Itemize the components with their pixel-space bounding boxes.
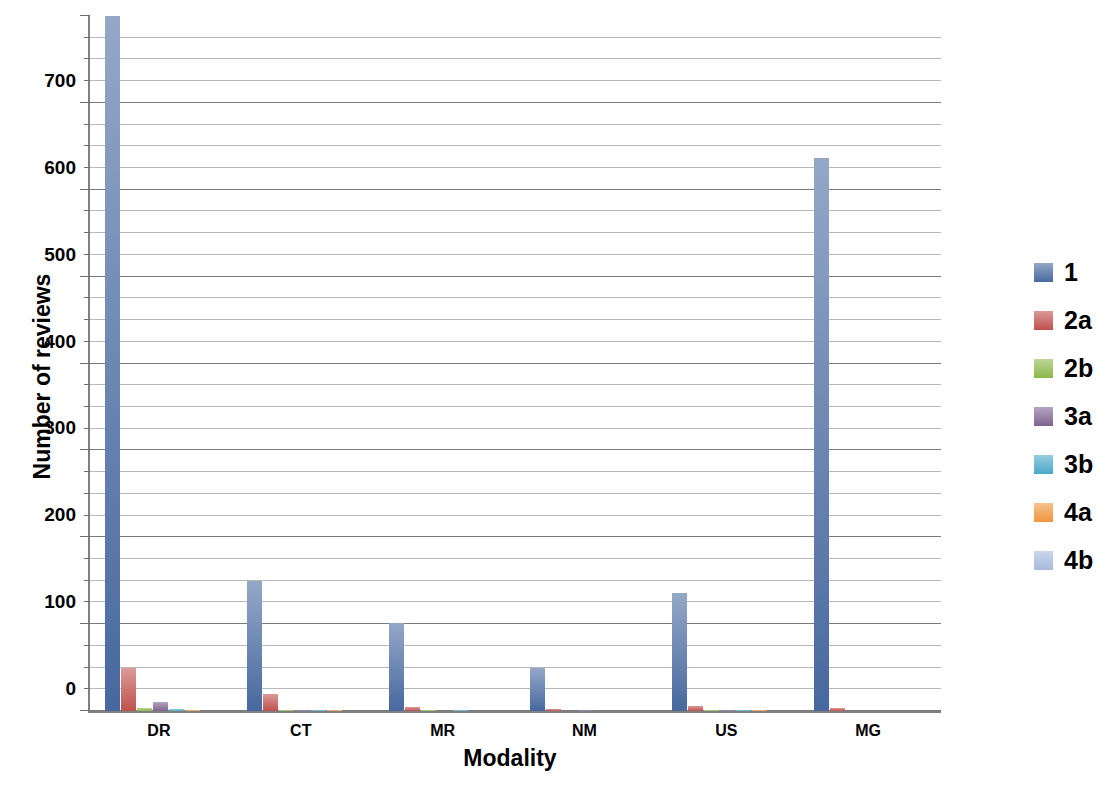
x-axis-label-us: US [715, 722, 737, 740]
bar-ct-series-3a[interactable] [295, 710, 310, 711]
bars-layer [90, 16, 941, 711]
bar-group-mr [389, 16, 501, 711]
y-axis-tick [80, 363, 90, 364]
bar-ct-series-2a[interactable] [263, 694, 278, 711]
x-axis-label-mr: MR [430, 722, 455, 740]
bar-dr-series-2a[interactable] [121, 668, 136, 711]
legend-label: 2a [1064, 308, 1092, 333]
y-axis-tick-label: 300 [44, 417, 76, 439]
y-axis-tick [80, 189, 90, 190]
legend-label: 4a [1064, 500, 1092, 525]
bar-group-mg [814, 16, 926, 711]
y-axis-tick [80, 276, 90, 277]
legend-swatch-icon [1034, 503, 1053, 522]
bar-mr-series-2b[interactable] [421, 710, 436, 711]
y-axis-tick-label: 100 [44, 591, 76, 613]
bar-dr-series-3a[interactable] [153, 702, 168, 711]
bar-mr-series-1[interactable] [389, 623, 404, 711]
bar-dr-series-4a[interactable] [185, 710, 200, 711]
x-axis-title: Modality [80, 745, 940, 772]
legend-swatch-icon [1034, 551, 1053, 570]
legend-item-4a[interactable]: 4a [1034, 488, 1093, 536]
bar-group-us [672, 16, 784, 711]
legend-item-3b[interactable]: 3b [1034, 440, 1093, 488]
bar-nm-series-2a[interactable] [546, 709, 561, 711]
legend-item-2b[interactable]: 2b [1034, 344, 1093, 392]
legend-label: 4b [1064, 548, 1093, 573]
bar-dr-series-1[interactable] [105, 16, 120, 711]
legend-label: 3a [1064, 404, 1092, 429]
y-axis-tick-label: 600 [44, 157, 76, 179]
bar-nm-series-3a[interactable] [578, 710, 593, 711]
legend-swatch-icon [1034, 263, 1053, 282]
bar-chart: Number of reviews 0100200300400500600700… [0, 0, 1117, 799]
y-axis-tick-label: 400 [44, 331, 76, 353]
bar-us-series-3a[interactable] [720, 710, 735, 711]
bar-nm-series-1[interactable] [530, 668, 545, 711]
bar-ct-series-3b[interactable] [311, 710, 326, 711]
bar-mr-series-3b[interactable] [453, 710, 468, 711]
bar-ct-series-4a[interactable] [327, 710, 342, 711]
legend-item-4b[interactable]: 4b [1034, 536, 1093, 584]
bar-us-series-4a[interactable] [752, 710, 767, 711]
bar-us-series-3b[interactable] [736, 710, 751, 711]
x-axis-label-dr: DR [147, 722, 170, 740]
bar-mr-series-2a[interactable] [405, 707, 420, 711]
bar-group-ct [247, 16, 359, 711]
legend-swatch-icon [1034, 455, 1053, 474]
y-axis-tick-label: 800 [44, 0, 76, 5]
y-axis-tick-label: 200 [44, 504, 76, 526]
bar-ct-series-2b[interactable] [279, 710, 294, 711]
legend-swatch-icon [1034, 359, 1053, 378]
bar-dr-series-2b[interactable] [137, 708, 152, 711]
legend-label: 3b [1064, 452, 1093, 477]
bar-mg-series-2a[interactable] [830, 708, 845, 711]
bar-us-series-2a[interactable] [688, 706, 703, 711]
x-axis-label-nm: NM [572, 722, 597, 740]
bar-group-nm [530, 16, 642, 711]
y-axis-tick-label: 500 [44, 244, 76, 266]
y-axis-title: Number of reviews [29, 227, 56, 527]
y-axis-tick [80, 102, 90, 103]
bar-us-series-2b[interactable] [704, 710, 719, 711]
legend-label: 1 [1064, 260, 1078, 285]
y-axis-tick [80, 15, 90, 16]
y-axis-tick-label: 700 [44, 70, 76, 92]
legend-swatch-icon [1034, 311, 1053, 330]
legend-item-2a[interactable]: 2a [1034, 296, 1093, 344]
legend-item-1[interactable]: 1 [1034, 248, 1093, 296]
y-axis-tick [80, 449, 90, 450]
bar-ct-series-1[interactable] [247, 581, 262, 711]
plot-area: 0100200300400500600700800 [88, 16, 941, 713]
bar-mg-series-1[interactable] [814, 158, 829, 711]
legend-swatch-icon [1034, 407, 1053, 426]
legend-label: 2b [1064, 356, 1093, 381]
legend: 12a2b3a3b4a4b [1034, 248, 1093, 584]
bar-group-dr [105, 16, 217, 711]
bar-us-series-1[interactable] [672, 593, 687, 711]
y-axis-tick [80, 623, 90, 624]
legend-item-3a[interactable]: 3a [1034, 392, 1093, 440]
y-axis-tick [80, 710, 90, 711]
x-axis-label-ct: CT [290, 722, 311, 740]
y-axis-tick [80, 536, 90, 537]
bar-dr-series-3b[interactable] [169, 709, 184, 711]
y-axis-tick-label: 0 [65, 678, 76, 700]
x-axis-label-mg: MG [855, 722, 881, 740]
